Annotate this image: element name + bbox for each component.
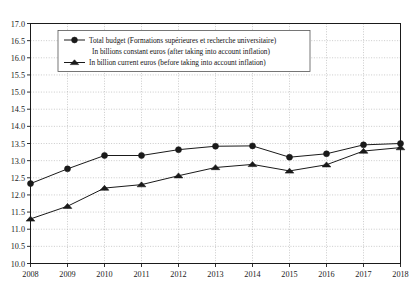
y-axis-tick-label: 12.0 [11, 191, 25, 200]
y-axis-tick-label: 15.5 [11, 71, 25, 80]
data-point-marker [28, 181, 34, 187]
data-point-marker [139, 153, 145, 159]
data-point-marker [287, 154, 293, 160]
y-axis-tick-label: 13.5 [11, 140, 25, 149]
line-chart: 17.016.516.015.515.014.514.013.513.012.5… [0, 0, 414, 289]
x-axis-tick-label: 2017 [355, 270, 371, 279]
x-axis-tick-label: 2010 [96, 270, 112, 279]
y-axis-tick-label: 10.5 [11, 242, 25, 251]
legend-marker-circle [72, 37, 78, 43]
legend-label: In billions constant euros (after taking… [92, 47, 270, 56]
x-axis-tick-label: 2009 [59, 270, 75, 279]
y-axis-labels: 17.016.516.015.515.014.514.013.513.012.5… [11, 20, 25, 269]
x-axis-tick-label: 2013 [207, 270, 223, 279]
x-axis-tick-label: 2018 [392, 270, 408, 279]
y-axis-tick-label: 10.0 [11, 260, 25, 269]
x-axis-tick-label: 2011 [133, 270, 149, 279]
legend-entry-continuation: In billions constant euros (after taking… [92, 47, 270, 56]
legend-label: In billion current euros (before taking … [89, 58, 266, 67]
data-point-marker [361, 142, 367, 148]
data-point-marker [65, 166, 71, 172]
y-axis-tick-label: 11.5 [11, 208, 25, 217]
y-axis-tick-label: 16.5 [11, 37, 25, 46]
chart-legend: Total budget (Formations supérieures et … [58, 31, 310, 72]
data-point-marker [250, 143, 256, 149]
x-axis-tick-label: 2012 [170, 270, 186, 279]
x-axis-tick-label: 2008 [22, 270, 38, 279]
data-point-marker [102, 153, 108, 159]
legend-entry-triangle: In billion current euros (before taking … [64, 58, 266, 67]
y-axis-tick-label: 15.0 [11, 88, 25, 97]
y-axis-tick-label: 14.5 [11, 105, 25, 114]
legend-entry-circle: Total budget (Formations supérieures et … [64, 36, 277, 45]
x-axis-tick-label: 2016 [318, 270, 334, 279]
y-axis-tick-label: 13.0 [11, 157, 25, 166]
y-axis-tick-label: 14.0 [11, 122, 25, 131]
x-axis-tick-label: 2014 [244, 270, 260, 279]
chart-container: 17.016.516.015.515.014.514.013.513.012.5… [0, 0, 414, 289]
data-point-marker [324, 151, 330, 157]
data-point-marker [176, 147, 182, 153]
legend-label: Total budget (Formations supérieures et … [89, 36, 277, 45]
y-axis-tick-label: 16.0 [11, 54, 25, 63]
y-axis-tick-label: 12.5 [11, 174, 25, 183]
data-point-marker [213, 143, 219, 149]
y-axis-tick-label: 11.0 [11, 225, 25, 234]
y-axis-tick-label: 17.0 [11, 20, 25, 29]
x-axis-tick-label: 2015 [281, 270, 297, 279]
